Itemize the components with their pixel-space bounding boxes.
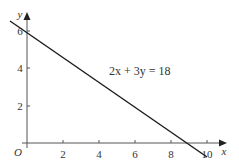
x-tick-label: 4 <box>96 148 102 160</box>
x-axis-label: x <box>221 145 227 157</box>
y-tick-label: 2 <box>17 100 23 112</box>
x-tick-label: 8 <box>168 148 174 160</box>
y-axis-label: y <box>17 8 23 20</box>
y-axis-arrow-icon <box>24 12 31 20</box>
chart-container: 2 4 6 8 10 2 4 6 x y O 2x + 3y = 18 <box>0 0 239 167</box>
y-tick-label: 4 <box>17 62 23 74</box>
x-tick-label: 2 <box>60 148 66 160</box>
equation-line <box>10 21 207 157</box>
x-tick-label: 6 <box>132 148 138 160</box>
origin-label: O <box>14 146 22 158</box>
equation-label: 2x + 3y = 18 <box>109 64 171 78</box>
